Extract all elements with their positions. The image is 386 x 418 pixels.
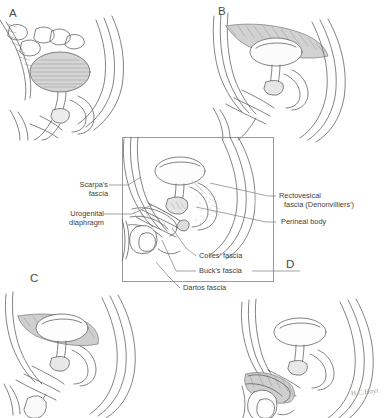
- annotation-bucks-fascia: Buck's fascia: [199, 266, 242, 275]
- panel-letter-c: C: [30, 272, 39, 284]
- annotation-scarpas-fascia: Scarpa's fascia: [18, 180, 108, 199]
- annotation-rectovesical-fascia: Rectovesical fascia (Denonvilliers'): [279, 191, 354, 210]
- annotation-rectovesical-fascia-line2: fascia (Denonvilliers'): [279, 200, 354, 209]
- annotation-scarpas-fascia-line2: fascia: [18, 189, 108, 198]
- panel-letter-a: A: [9, 7, 17, 19]
- annotation-dartos-fascia: Dartos fascia: [183, 283, 226, 292]
- annotation-urogenital-diaphragm-line2: diaphragm: [8, 218, 104, 227]
- annotation-perineal-body: Perineal body: [281, 217, 326, 226]
- annotation-rectovesical-fascia-line1: Rectovesical: [279, 191, 354, 200]
- annotation-scarpas-fascia-line1: Scarpa's: [18, 180, 108, 189]
- figure-male-pelvis-fascial-planes: A B C D Scarpa's fascia Urogenital diaph…: [0, 0, 386, 418]
- annotation-colles-fascia: Colles' fascia: [199, 251, 242, 260]
- annotation-urogenital-diaphragm: Urogenital diaphragm: [8, 209, 104, 228]
- panel-letter-b: B: [218, 5, 226, 17]
- annotation-urogenital-diaphragm-line1: Urogenital: [8, 209, 104, 218]
- panel-letter-d: D: [286, 258, 295, 270]
